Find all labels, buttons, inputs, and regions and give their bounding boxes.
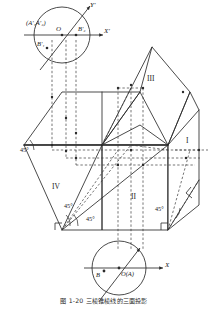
label-quadrant-iii: III (147, 75, 155, 83)
label-origin-top: O (56, 26, 61, 33)
quadrant-i-outline (168, 92, 199, 230)
label-quadrant-ii: II (131, 193, 136, 201)
label-origin-bottom: O(A) (121, 271, 134, 278)
label-x-axis: X (165, 262, 169, 269)
quadrant-iii-outline (102, 47, 190, 145)
solid-body-edges (24, 92, 168, 230)
label-quadrant-iv: IV (52, 183, 60, 191)
label-quadrant-i: I (186, 137, 189, 145)
right-angle-markers (55, 187, 192, 230)
angle-45-left-upper: 45° (20, 147, 29, 153)
figure-root: (A'₁A'₂) O B'₂ B'₁ X' Y' B O(A) X I II I… (0, 0, 208, 310)
label-x-prime-axis: X' (104, 28, 110, 35)
quadrant-iv-outline (24, 92, 140, 230)
angle-45-left-lower: 45° (64, 203, 73, 209)
label-b2-prime: B'₂ (78, 26, 86, 33)
auxiliary-circle-top (24, 6, 103, 70)
label-b-point: B (96, 272, 100, 279)
projection-diagram (0, 0, 208, 310)
angle-45-bottom-center: 45° (86, 216, 95, 222)
label-y-prime-axis: Y' (90, 2, 95, 9)
angle-45-right: 45° (155, 206, 164, 212)
vertex-dots (51, 84, 200, 166)
label-b1-prime: B'₁ (37, 41, 45, 48)
figure-caption: 图 1-20 三棱锥棱线的三面投影 (0, 296, 208, 305)
label-a1a2-prime: (A'₁A'₂) (26, 20, 46, 27)
